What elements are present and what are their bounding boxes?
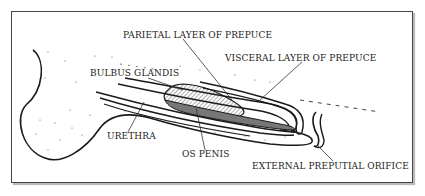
label-urethra: URETHRA <box>107 131 156 141</box>
body-outline <box>20 50 312 160</box>
label-parietal-layer: PARIETAL LAYER OF PREPUCE <box>123 30 272 40</box>
label-visceral-layer: VISCERAL LAYER OF PREPUCE <box>225 53 376 63</box>
label-os-penis: OS PENIS <box>182 149 229 159</box>
preputial-orifice-outline <box>313 112 319 146</box>
label-external-preputial-orifice: EXTERNAL PREPUTIAL ORIFICE <box>252 161 409 171</box>
label-bulbus-glandis: BULBUS GLANDIS <box>90 68 179 78</box>
